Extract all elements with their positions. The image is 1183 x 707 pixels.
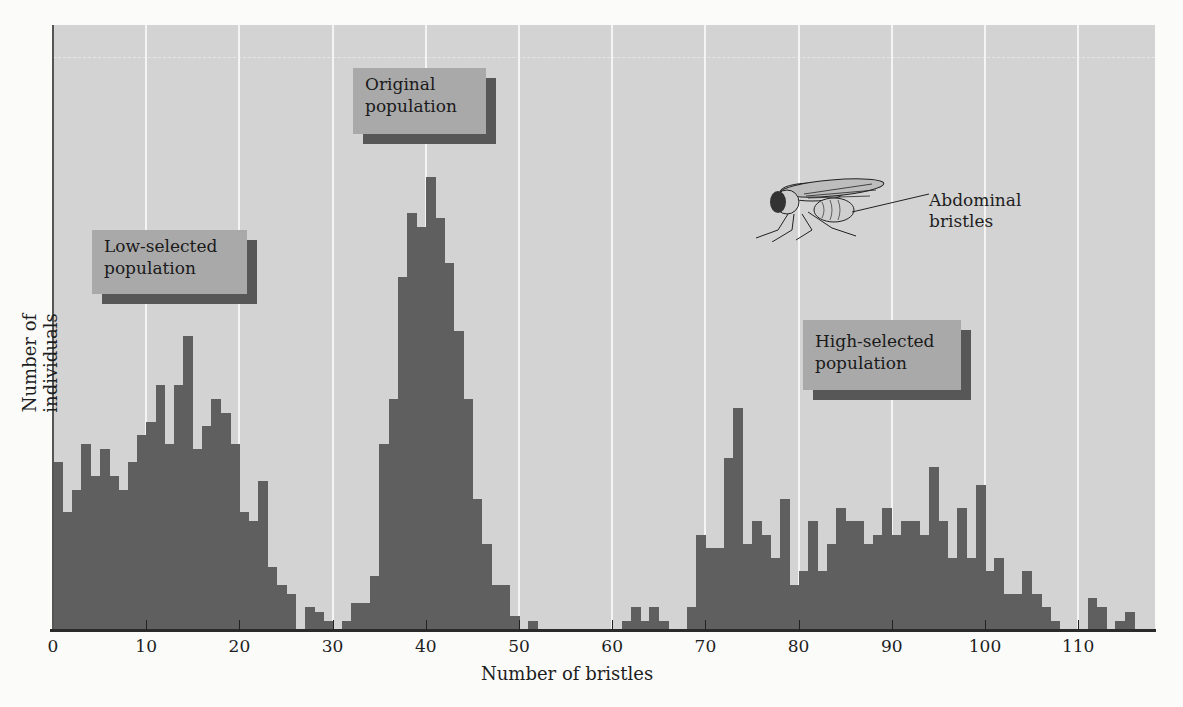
vertical-gridline [611,25,613,630]
vertical-gridline [518,25,520,630]
top-dashed-gridline [53,57,1155,58]
fruit-fly-icon [752,172,932,242]
x-tick-label: 60 [601,636,623,656]
x-axis-line [50,629,1156,632]
label-line: population [365,95,474,117]
x-tick-mark [799,620,800,630]
label-line: bristles [929,211,1021,232]
label-line: population [104,257,235,279]
x-axis-label: Number of bristles [481,663,653,684]
vertical-gridline [798,25,800,630]
x-tick-label: 90 [881,636,903,656]
x-tick-mark [1078,620,1079,630]
histogram-bar [1125,612,1135,630]
label-low-selected: Low-selectedpopulation [92,230,247,294]
x-tick-mark [519,620,520,630]
x-tick-label: 30 [322,636,344,656]
histogram-bar [1097,607,1107,630]
histogram-bar [286,594,296,630]
x-tick-mark [612,620,613,630]
x-tick-mark [333,620,334,630]
x-tick-mark [426,620,427,630]
label-line: Low-selected [104,235,235,257]
x-tick-mark [985,620,986,630]
x-tick-label: 70 [695,636,717,656]
x-tick-mark [892,620,893,630]
label-line: population [815,352,949,374]
x-tick-label: 80 [788,636,810,656]
label-high-selected: High-selectedpopulation [803,320,961,390]
x-tick-label: 100 [969,636,1001,656]
label-line: Abdominal [929,190,1021,211]
x-tick-label: 0 [48,636,59,656]
x-tick-label: 40 [415,636,437,656]
x-tick-mark [146,620,147,630]
x-tick-mark [705,620,706,630]
label-original: Originalpopulation [353,68,486,134]
x-tick-label: 10 [135,636,157,656]
label-line: Original [365,73,474,95]
x-tick-label: 20 [229,636,251,656]
vertical-gridline [1077,25,1079,630]
x-tick-label: 50 [508,636,530,656]
vertical-gridline [332,25,334,630]
label-line: High-selected [815,330,949,352]
x-tick-mark [239,620,240,630]
x-tick-label: 110 [1062,636,1094,656]
plot-area [53,25,1155,630]
abdominal-bristles-label: Abdominal bristles [929,190,1021,232]
y-axis-label: Number of individuals [19,263,61,463]
